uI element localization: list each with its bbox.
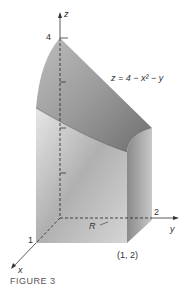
z-tick-4: 4 <box>46 33 51 42</box>
y-axis-label: y <box>170 225 175 234</box>
side-face <box>127 128 152 243</box>
corner-point-label: (1, 2) <box>117 251 138 260</box>
x-tick-1: 1 <box>28 236 33 245</box>
x-arrow-icon <box>11 263 16 269</box>
z-arrow-icon <box>58 12 62 18</box>
figure-caption: FIGURE 3 <box>10 276 56 286</box>
surface-equation: z = 4 − x² − y <box>111 74 163 83</box>
y-arrow-icon <box>173 216 179 220</box>
z-axis-label: z <box>64 10 69 19</box>
x-axis-label: x <box>18 266 23 275</box>
y-tick-2: 2 <box>154 208 159 217</box>
region-label: R <box>89 222 96 231</box>
figure-graphic <box>0 0 189 290</box>
